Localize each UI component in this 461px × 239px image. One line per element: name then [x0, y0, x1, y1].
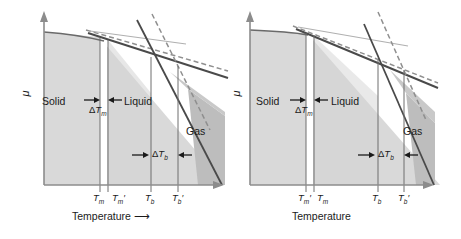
left-tick-label-tm-prime: Tm′ [112, 193, 125, 205]
left-region-label-gas: Gas [186, 126, 205, 137]
right-tick-tbp-prime: ′ [407, 192, 409, 203]
left-tick-label-tb-prime: Tb′ [172, 193, 183, 205]
left-y-axis-label: μ [20, 86, 31, 102]
phase-diagram-figure: μ Solid Liquid Gas ΔTm ΔTb Tm Tm′ Tb Tb′… [0, 0, 461, 239]
panel-left: μ Solid Liquid Gas ΔTm ΔTb Tm Tm′ Tb Tb′… [0, 0, 231, 239]
right-delta-tm-sub: m [307, 110, 312, 117]
right-tick-label-tb: Tb [372, 193, 381, 205]
left-tick-tb-sub: b [151, 198, 155, 205]
right-tick-label-tm: Tm [317, 193, 328, 205]
right-x-axis-title-text: Temperature [292, 210, 351, 222]
right-region-label-gas: Gas [403, 126, 422, 137]
left-tick-label-tm: Tm [93, 193, 104, 205]
left-delta-tb-label: ΔTb [152, 149, 168, 161]
left-x-axis-title: Temperature ⟶ [72, 211, 150, 222]
left-region-label-liquid: Liquid [124, 96, 152, 107]
left-tick-tmp-prime: ′ [123, 192, 125, 203]
right-region-label-liquid: Liquid [331, 96, 359, 107]
left-region-label-solid: Solid [42, 96, 65, 107]
right-tick-tb-sub: b [378, 198, 382, 205]
right-y-axis-arrow-icon [246, 11, 254, 22]
left-y-axis-arrow-icon [40, 11, 48, 22]
panel-right: μ Solid Liquid Gas ΔTm ΔTb Tm′ Tm Tb Tb′… [230, 0, 461, 239]
left-tick-tbp-prime: ′ [181, 192, 183, 203]
left-delta-tm-sub: m [101, 110, 106, 117]
left-tick-tm-sub: m [99, 198, 104, 205]
left-tick-label-tb: Tb [145, 193, 154, 205]
right-delta-tm-label: ΔTm [295, 105, 313, 117]
right-delta-tb-sub: b [390, 154, 394, 161]
right-tick-label-tb-prime: Tb′ [398, 193, 409, 205]
left-x-axis-arrow-glyph-icon: ⟶ [134, 210, 150, 222]
left-liquid-fill [108, 40, 151, 185]
right-plot-canvas [230, 0, 461, 239]
right-region-label-solid: Solid [256, 96, 279, 107]
right-tick-tmp-prime: ′ [309, 192, 311, 203]
right-delta-tb-label: ΔTb [378, 149, 394, 161]
left-x-axis-title-text: Temperature [72, 210, 131, 222]
right-y-axis-label: μ [231, 86, 242, 102]
right-tick-tm-sub: m [323, 198, 328, 205]
left-delta-tb-sub: b [164, 154, 168, 161]
right-x-axis-title: Temperature [292, 211, 351, 222]
left-delta-tm-label: ΔTm [89, 105, 107, 117]
right-tick-label-tm-prime: Tm′ [298, 193, 311, 205]
